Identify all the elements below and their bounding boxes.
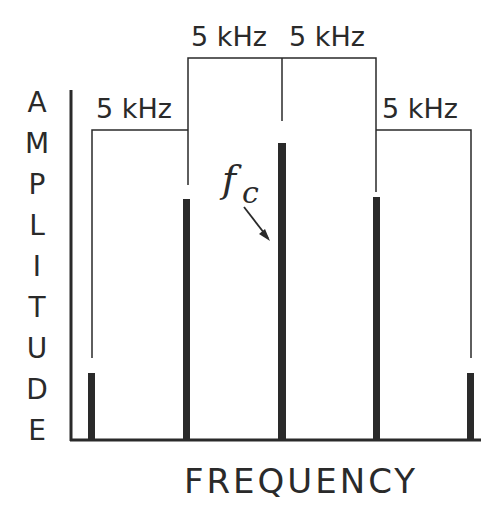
spacing-label-inner-left: 5 kHz <box>191 21 267 52</box>
lower-sideband-near-bar <box>183 199 190 440</box>
outer-right-bracket <box>376 130 471 358</box>
y-letter: E <box>28 414 46 447</box>
lower-sideband-far-bar <box>88 373 95 440</box>
x-axis-label: FREQUENCY <box>184 461 418 501</box>
y-letter: U <box>27 332 48 365</box>
spacing-label-outer-left: 5 kHz <box>96 93 172 124</box>
spectrum-diagram: A M P L I T U D E 5 kHz 5 kHz 5 kHz 5 kH… <box>0 0 493 514</box>
arrow-icon <box>244 207 270 241</box>
y-letter: M <box>25 127 49 160</box>
y-letter: T <box>27 291 46 324</box>
y-letter: I <box>33 250 41 283</box>
y-letter: A <box>27 86 46 119</box>
y-letter: D <box>26 373 48 406</box>
carrier-bar <box>278 143 286 440</box>
y-letter: P <box>29 168 46 201</box>
spacing-label-outer-right: 5 kHz <box>382 93 458 124</box>
carrier-subscript: c <box>242 175 259 210</box>
y-letter: L <box>29 209 45 242</box>
upper-sideband-far-bar <box>467 373 474 440</box>
upper-sideband-near-bar <box>373 197 380 440</box>
spacing-label-inner-right: 5 kHz <box>289 21 365 52</box>
carrier-label: f c <box>219 157 259 210</box>
carrier-f: f <box>219 157 242 201</box>
outer-left-bracket <box>92 130 188 358</box>
y-axis-label: A M P L I T U D E <box>25 86 49 447</box>
